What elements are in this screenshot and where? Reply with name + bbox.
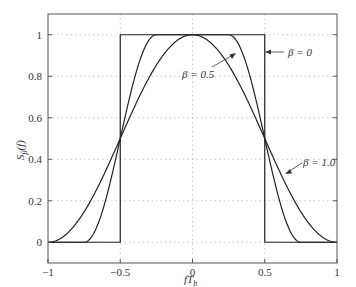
y-tick-label: 1 xyxy=(37,29,43,41)
annotation-beta10: β = 1.0 xyxy=(285,156,336,174)
annotation-beta10-label: β = 1.0 xyxy=(302,156,336,168)
x-tick-label: 0.5 xyxy=(258,266,272,278)
x-tick-label: −1 xyxy=(42,266,54,278)
axis-ticks: −1−0.500.5100.20.40.60.81 xyxy=(28,29,340,278)
curves xyxy=(48,35,337,243)
annotation-beta0: β = 0 xyxy=(265,46,312,58)
curve-beta10 xyxy=(48,35,337,243)
x-tick-label: −0.5 xyxy=(110,266,130,278)
y-tick-label: 0 xyxy=(37,236,43,248)
y-axis-label: Sβ(f) xyxy=(14,140,29,160)
y-tick-label: 0.2 xyxy=(28,195,42,207)
annotation-beta0-label: β = 0 xyxy=(287,46,312,58)
curve-beta05 xyxy=(48,35,337,243)
raised-cosine-chart: −1−0.500.5100.20.40.60.81 β = 0 β = 0.5 … xyxy=(0,0,356,287)
y-tick-label: 0.6 xyxy=(28,112,42,124)
annotation-beta05-label: β = 0.5 xyxy=(181,68,215,80)
y-tick-label: 0.4 xyxy=(28,153,42,165)
annotation-beta05: β = 0.5 xyxy=(181,53,236,80)
x-tick-label: 1 xyxy=(334,266,340,278)
y-tick-label: 0.8 xyxy=(28,70,42,82)
curve-beta0 xyxy=(48,35,337,243)
